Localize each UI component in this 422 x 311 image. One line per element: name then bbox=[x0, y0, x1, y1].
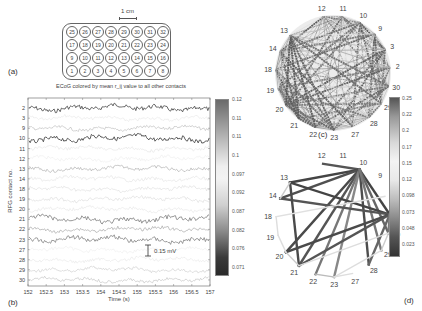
network-d-edge bbox=[276, 217, 278, 236]
network-c-node-label: 30 bbox=[392, 84, 400, 91]
network-d-node-label: 19 bbox=[266, 234, 274, 241]
network-c-node-label: 23 bbox=[330, 134, 338, 141]
network-d-node-label: 13 bbox=[280, 174, 288, 181]
network-c-node-label: 20 bbox=[275, 106, 283, 113]
network-d-edge bbox=[316, 274, 335, 277]
colorbar-tick-label: 0.22 bbox=[402, 111, 412, 117]
network-c-node-label: 13 bbox=[280, 27, 288, 34]
network-d-node-label: 22 bbox=[309, 278, 317, 285]
panel-c-label: (c) bbox=[318, 130, 327, 139]
network-c-node-label: 22 bbox=[309, 131, 317, 138]
network-c-node-label: 12 bbox=[318, 5, 326, 12]
network-d-node-label: 12 bbox=[318, 152, 326, 159]
network-d-edge bbox=[299, 170, 360, 266]
colorbar-tick-label: 0.15 bbox=[402, 160, 412, 166]
colorbar-cd bbox=[389, 97, 400, 257]
network-d-node-label: 21 bbox=[290, 269, 298, 276]
network-d-node-label: 9 bbox=[378, 172, 382, 179]
network-c-node-label: 19 bbox=[266, 87, 274, 94]
network-d-node-label: 10 bbox=[359, 159, 367, 166]
network-d-edge bbox=[278, 235, 286, 252]
network-d-node-label: 14 bbox=[269, 192, 277, 199]
colorbar-tick-label: 0.023 bbox=[402, 241, 415, 247]
network-d-node-label: 28 bbox=[370, 267, 378, 274]
colorbar-tick-label: 0.25 bbox=[402, 95, 412, 101]
network-d-edge bbox=[323, 164, 359, 170]
network-c-node-label: 9 bbox=[378, 25, 382, 32]
network-c-node-label: 3 bbox=[390, 43, 394, 50]
network-d-node-label: 27 bbox=[351, 278, 359, 285]
panel-d-label: (d) bbox=[404, 296, 414, 305]
network-c-node-label: 21 bbox=[290, 122, 298, 129]
colorbar-tick-label: 0.048 bbox=[402, 225, 415, 231]
network-c-node-label: 10 bbox=[359, 12, 367, 19]
network-c-node-label: 27 bbox=[351, 131, 359, 138]
network-c-node-label: 18 bbox=[264, 66, 272, 73]
network-d-node-label: 18 bbox=[264, 213, 272, 220]
network-c-node-label: 11 bbox=[339, 5, 346, 12]
network-c-node-label: 14 bbox=[269, 45, 277, 52]
colorbar-tick-label: 0.2 bbox=[402, 127, 409, 133]
network-c-node-label: 2 bbox=[396, 63, 400, 70]
network-c-node-label: 28 bbox=[370, 120, 378, 127]
colorbar-tick-label: 0.17 bbox=[402, 144, 412, 150]
network-d-edge bbox=[290, 183, 299, 266]
colorbar-tick-label: 0.098 bbox=[402, 192, 415, 198]
network-d-node-label: 20 bbox=[275, 253, 283, 260]
panel-cd-networks: 1211109323029282723222120191814131211109… bbox=[0, 0, 422, 311]
network-d-node-label: 23 bbox=[330, 281, 338, 288]
colorbar-tick-label: 0.073 bbox=[402, 209, 415, 215]
network-d-node-label: 11 bbox=[339, 152, 346, 159]
colorbar-tick-label: 0.12 bbox=[402, 176, 412, 182]
